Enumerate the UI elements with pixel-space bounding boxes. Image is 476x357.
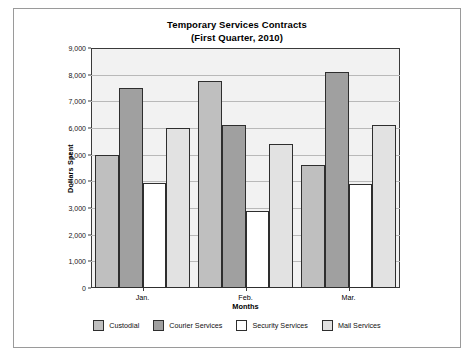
bar [269,144,293,288]
y-tick-mark [88,48,91,49]
legend-label: Courier Services [169,321,222,330]
chart-title-block: Temporary Services Contracts (First Quar… [14,19,460,44]
legend-swatch-icon [93,320,104,331]
legend-label: Mail Services [338,321,381,330]
gridline [91,75,400,76]
x-tick-mark [349,288,350,291]
y-axis-label: Dollars Spent [64,48,76,288]
x-tick-label: Jan. [136,293,150,302]
y-tick-mark [88,288,91,289]
bar [119,88,143,288]
bar [246,211,270,288]
chart-legend: CustodialCourier ServicesSecurity Servic… [13,320,461,331]
legend-swatch-icon [153,320,164,331]
legend-label: Security Services [252,321,308,330]
x-tick-label: Mar. [342,293,356,302]
x-tick-label: Feb. [238,293,252,302]
y-tick-label: 7,000 [68,98,86,105]
legend-swatch-icon [322,320,333,331]
bar [301,165,325,288]
bar [372,125,396,288]
y-tick-label: 3,000 [68,205,86,212]
y-tick-label: 6,000 [68,125,86,132]
y-tick-mark [88,181,91,182]
y-tick-mark [88,261,91,262]
bar [198,81,222,288]
y-tick-mark [88,128,91,129]
y-tick-mark [88,74,91,75]
x-tick-mark [246,288,247,291]
bar [325,72,349,288]
y-tick-label: 1,000 [68,258,86,265]
y-tick-mark [88,234,91,235]
legend-swatch-icon [236,320,247,331]
y-tick-mark [88,154,91,155]
y-tick-label: 4,000 [68,178,86,185]
x-axis-label: Months [91,302,400,311]
plot-wrapper: 9,0008,0007,0006,0005,0004,0003,0002,000… [91,48,400,288]
bar [95,155,119,288]
legend-item[interactable]: Custodial [93,320,139,331]
y-tick-label: 2,000 [68,231,86,238]
legend-item[interactable]: Courier Services [153,320,222,331]
chart-subtitle: (First Quarter, 2010) [14,32,460,45]
y-tick-label: 9,000 [68,45,86,52]
bar [222,125,246,288]
legend-item[interactable]: Mail Services [322,320,381,331]
y-tick-mark [88,208,91,209]
bar [349,184,373,288]
bar [143,183,167,288]
bar [166,128,190,288]
y-tick-label: 5,000 [68,151,86,158]
y-tick-label: 8,000 [68,71,86,78]
legend-item[interactable]: Security Services [236,320,308,331]
x-tick-mark [143,288,144,291]
legend-label: Custodial [109,321,139,330]
y-tick-mark [88,101,91,102]
y-tick-label: 0 [82,285,86,292]
chart-title: Temporary Services Contracts [14,19,460,32]
